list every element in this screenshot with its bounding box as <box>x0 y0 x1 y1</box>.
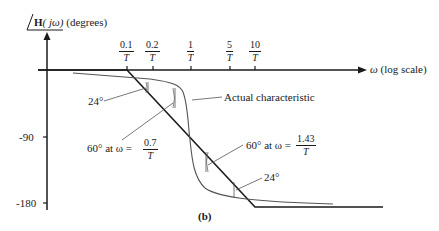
tick-den: T <box>226 52 233 63</box>
y-tick-label-180: -180 <box>16 198 36 209</box>
tick-den: T <box>187 52 194 63</box>
tick-den: T <box>249 52 261 63</box>
annotation-24-right: 24° <box>264 172 279 183</box>
y-axis-title-H: H <box>34 16 43 28</box>
tick-num: 10 <box>249 40 261 52</box>
frac-den: T <box>143 150 158 161</box>
annotation-60-left-text: 60° at ω = <box>87 142 132 154</box>
annotation-60-left: 60° at ω = <box>87 143 132 154</box>
x-tick-label-0.2: 0.2 T <box>145 40 160 63</box>
panel-label: (b) <box>198 211 211 222</box>
x-axis-arrow-icon <box>358 67 367 74</box>
tick-num: 1 <box>187 40 194 52</box>
annotation-24-left: 24° <box>88 96 103 107</box>
tick-den: T <box>145 52 160 63</box>
frac-den: T <box>296 146 316 157</box>
x-tick-label-10: 10 T <box>249 40 261 63</box>
tick-num: 0.1 <box>119 40 134 52</box>
bode-phase-plot <box>0 0 439 231</box>
x-axis-unit: (log scale) <box>381 63 427 75</box>
annotation-actual-characteristic: Actual characteristic <box>224 92 315 103</box>
tick-num: 5 <box>226 40 233 52</box>
annotation-60-left-fraction: 0.7 T <box>143 138 158 161</box>
frac-num: 1.43 <box>296 134 316 146</box>
asymptote-line <box>38 70 383 207</box>
x-tick-label-5: 5 T <box>226 40 233 63</box>
leader-actual <box>192 97 222 100</box>
annotation-60-right-fraction: 1.43 T <box>296 134 316 157</box>
x-tick-label-0.1: 0.1 T <box>119 40 134 63</box>
tick-num: 0.2 <box>145 40 160 52</box>
annotation-60-right: 60° at ω = <box>246 140 291 151</box>
y-axis-title: H( jω) (degrees) <box>34 17 107 28</box>
x-axis-title: ω (log scale) <box>370 64 427 75</box>
leader-60-left <box>122 103 173 140</box>
leader-24-left <box>104 88 146 101</box>
leader-24-right <box>236 178 262 190</box>
x-tick-label-1: 1 T <box>187 40 194 63</box>
annotation-60-right-text: 60° at ω = <box>246 139 291 151</box>
y-axis-arrow-icon <box>44 32 51 40</box>
y-tick-label-90: -90 <box>19 132 34 143</box>
leader-60-right <box>208 145 243 165</box>
tick-den: T <box>119 52 134 63</box>
x-axis-symbol: ω <box>370 63 378 75</box>
frac-num: 0.7 <box>143 138 158 150</box>
y-axis-title-unit: (degrees) <box>66 16 107 28</box>
y-axis-title-arg: ( jω) <box>43 16 64 28</box>
